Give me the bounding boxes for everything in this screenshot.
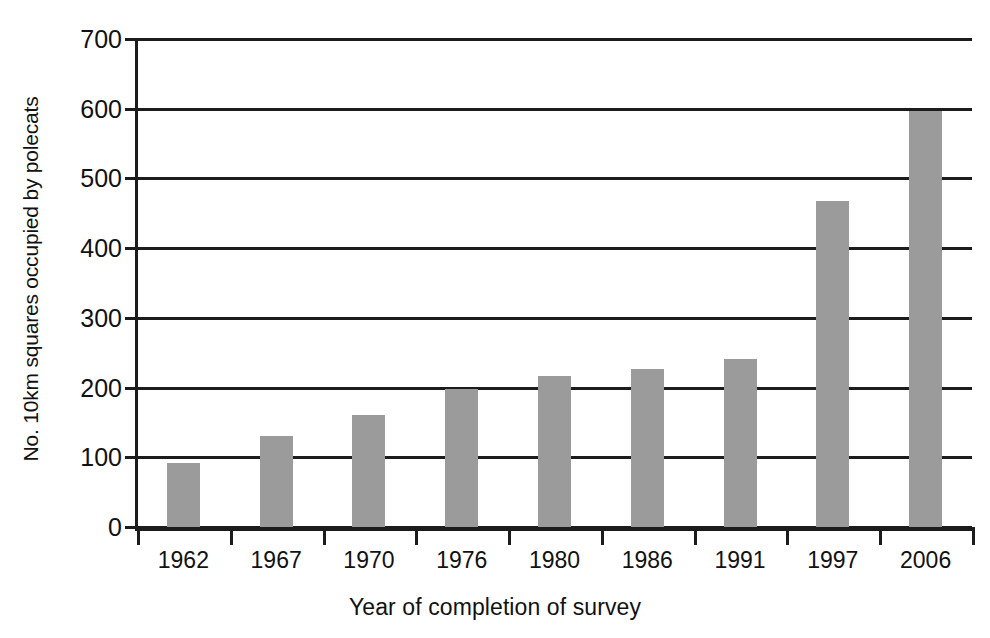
- y-tick-label-200: 200: [18, 375, 122, 400]
- y-tickmark-0: [125, 526, 139, 529]
- bar-1967: [260, 436, 293, 527]
- bar-2006: [909, 111, 942, 527]
- bar-1980: [538, 376, 571, 527]
- x-tick-label-1962: 1962: [158, 549, 209, 572]
- x-tick-label-1970: 1970: [343, 549, 394, 572]
- gridline-500: [137, 177, 972, 180]
- x-tick-label-1991: 1991: [714, 549, 765, 572]
- bar-1976: [445, 389, 478, 527]
- x-tick-label-1986: 1986: [622, 549, 673, 572]
- y-tickmark-500: [125, 177, 139, 180]
- bar-1991: [724, 359, 757, 527]
- x-tick-label-2006: 2006: [900, 549, 951, 572]
- x-axis-title: Year of completion of survey: [0, 594, 990, 621]
- y-tick-label-400: 400: [18, 236, 122, 261]
- bar-1962: [167, 463, 200, 527]
- bar-chart-figure: No. 10km squares occupied by polecats 01…: [0, 0, 990, 638]
- bar-1986: [631, 369, 664, 527]
- plot-area: [137, 39, 972, 527]
- x-tick-label-1980: 1980: [529, 549, 580, 572]
- x-tickmark-8: [879, 531, 882, 545]
- y-tickmark-600: [125, 108, 139, 111]
- x-tickmark-4: [508, 531, 511, 545]
- y-tick-label-600: 600: [18, 96, 122, 121]
- x-tick-label-1976: 1976: [436, 549, 487, 572]
- y-tickmark-300: [125, 317, 139, 320]
- x-tickmark-1: [230, 531, 233, 545]
- y-tickmark-200: [125, 387, 139, 390]
- bar-1997: [816, 201, 849, 527]
- x-axis-line: [137, 527, 975, 531]
- y-tickmark-100: [125, 456, 139, 459]
- gridline-600: [137, 108, 972, 111]
- x-tickmark-3: [415, 531, 418, 545]
- x-tick-label-1967: 1967: [251, 549, 302, 572]
- x-tickmark-2: [323, 531, 326, 545]
- y-tickmark-400: [125, 247, 139, 250]
- x-tickmark-5: [601, 531, 604, 545]
- gridline-700: [137, 38, 972, 41]
- y-tick-label-100: 100: [18, 445, 122, 470]
- y-tick-label-300: 300: [18, 305, 122, 330]
- y-tick-label-0: 0: [18, 515, 122, 540]
- bar-1970: [352, 415, 385, 527]
- y-axis-tick-labels: 0100200300400500600700: [18, 0, 122, 638]
- y-tickmark-700: [125, 38, 139, 41]
- x-tick-label-1997: 1997: [807, 549, 858, 572]
- x-tickmark-6: [694, 531, 697, 545]
- y-tick-label-700: 700: [18, 27, 122, 52]
- x-tickmark-0: [137, 531, 140, 545]
- y-tick-label-500: 500: [18, 166, 122, 191]
- x-tickmark-7: [786, 531, 789, 545]
- x-tickmark-9: [972, 531, 975, 545]
